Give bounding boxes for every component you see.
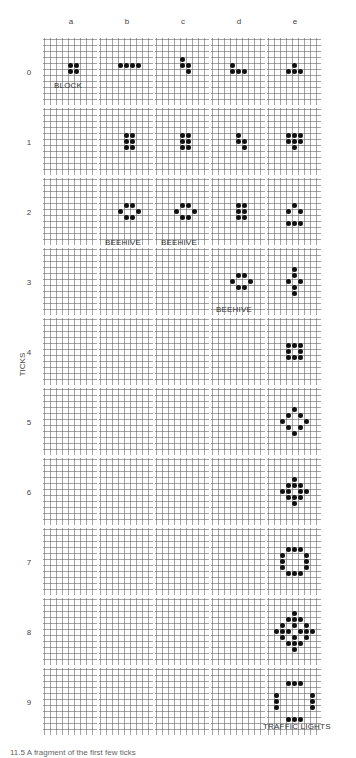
live-cell-dot — [248, 279, 253, 284]
pattern-label: BEEHIVE — [105, 238, 141, 247]
live-cell-dot — [286, 355, 291, 360]
live-cell-dot — [286, 349, 291, 354]
grid-cell-b6 — [99, 458, 153, 525]
live-cell-dot — [274, 629, 279, 634]
live-cell-dot — [280, 629, 285, 634]
grid-cell-d6 — [211, 458, 265, 525]
live-cell-dot — [274, 705, 279, 710]
live-cell-dot — [230, 69, 235, 74]
live-cell-dot — [186, 63, 191, 68]
live-cell-dot — [236, 209, 241, 214]
live-cell-dot — [236, 203, 241, 208]
live-cell-dot — [286, 413, 291, 418]
live-cell-dot — [292, 571, 297, 576]
grid-cell-a3 — [43, 248, 97, 315]
grid-cell-c0 — [155, 38, 209, 105]
grid-cell-b5 — [99, 388, 153, 455]
live-cell-dot — [286, 547, 291, 552]
live-cell-dot — [298, 279, 303, 284]
live-cell-dot — [280, 559, 285, 564]
live-cell-dot — [236, 215, 241, 220]
live-cell-dot — [286, 343, 291, 348]
live-cell-dot — [292, 343, 297, 348]
live-cell-dot — [292, 477, 297, 482]
live-cell-dot — [186, 145, 191, 150]
live-cell-dot — [298, 617, 303, 622]
live-cell-dot — [130, 63, 135, 68]
live-cell-dot — [304, 629, 309, 634]
grid-cell-d4 — [211, 318, 265, 385]
row-label-9: 9 — [22, 698, 36, 707]
grid-cell-b3 — [99, 248, 153, 315]
live-cell-dot — [292, 273, 297, 278]
live-cell-dot — [292, 139, 297, 144]
pattern-label: BLOCK — [54, 81, 82, 90]
grid-cell-c9 — [155, 668, 209, 735]
live-cell-dot — [136, 209, 141, 214]
live-cell-dot — [130, 203, 135, 208]
grid-cell-a1 — [43, 108, 97, 175]
live-cell-dot — [180, 139, 185, 144]
live-cell-dot — [298, 629, 303, 634]
grid-cell-c3 — [155, 248, 209, 315]
live-cell-dot — [280, 565, 285, 570]
live-cell-dot — [230, 279, 235, 284]
live-cell-dot — [292, 203, 297, 208]
grid-cell-e5 — [267, 388, 321, 455]
live-cell-dot — [118, 209, 123, 214]
grid-cell-b9 — [99, 668, 153, 735]
row-label-8: 8 — [22, 628, 36, 637]
live-cell-dot — [304, 635, 309, 640]
live-cell-dot — [304, 419, 309, 424]
live-cell-dot — [298, 69, 303, 74]
live-cell-dot — [286, 425, 291, 430]
live-cell-dot — [310, 629, 315, 634]
live-cell-dot — [242, 209, 247, 214]
live-cell-dot — [310, 699, 315, 704]
figure-caption: 11.5 A fragment of the first few ticks — [10, 748, 136, 757]
grid-cell-d9 — [211, 668, 265, 735]
live-cell-dot — [242, 203, 247, 208]
live-cell-dot — [292, 617, 297, 622]
live-cell-dot — [286, 641, 291, 646]
grid-cell-b2 — [99, 178, 153, 245]
live-cell-dot — [130, 145, 135, 150]
live-cell-dot — [292, 641, 297, 646]
grid-cell-c5 — [155, 388, 209, 455]
live-cell-dot — [74, 63, 79, 68]
live-cell-dot — [292, 483, 297, 488]
live-cell-dot — [68, 63, 73, 68]
live-cell-dot — [292, 69, 297, 74]
row-label-7: 7 — [22, 558, 36, 567]
live-cell-dot — [292, 63, 297, 68]
live-cell-dot — [124, 139, 129, 144]
live-cell-dot — [292, 623, 297, 628]
row-label-5: 5 — [22, 418, 36, 427]
live-cell-dot — [236, 139, 241, 144]
live-cell-dot — [298, 547, 303, 552]
grid-cell-e4 — [267, 318, 321, 385]
live-cell-dot — [292, 145, 297, 150]
live-cell-dot — [298, 221, 303, 226]
pattern-label: TRAFFIC LIGHTS — [263, 722, 331, 731]
live-cell-dot — [298, 425, 303, 430]
live-cell-dot — [130, 139, 135, 144]
live-cell-dot — [286, 629, 291, 634]
live-cell-dot — [286, 617, 291, 622]
grid-cell-d5 — [211, 388, 265, 455]
live-cell-dot — [292, 355, 297, 360]
live-cell-dot — [186, 215, 191, 220]
live-cell-dot — [242, 69, 247, 74]
live-cell-dot — [292, 133, 297, 138]
column-label-d: d — [211, 17, 267, 26]
grid-cell-e6 — [267, 458, 321, 525]
grid-cell-c4 — [155, 318, 209, 385]
live-cell-dot — [292, 681, 297, 686]
live-cell-dot — [242, 273, 247, 278]
row-label-3: 3 — [22, 278, 36, 287]
grid-cell-a6 — [43, 458, 97, 525]
live-cell-dot — [280, 553, 285, 558]
live-cell-dot — [124, 145, 129, 150]
grid-cell-b8 — [99, 598, 153, 665]
live-cell-dot — [286, 681, 291, 686]
